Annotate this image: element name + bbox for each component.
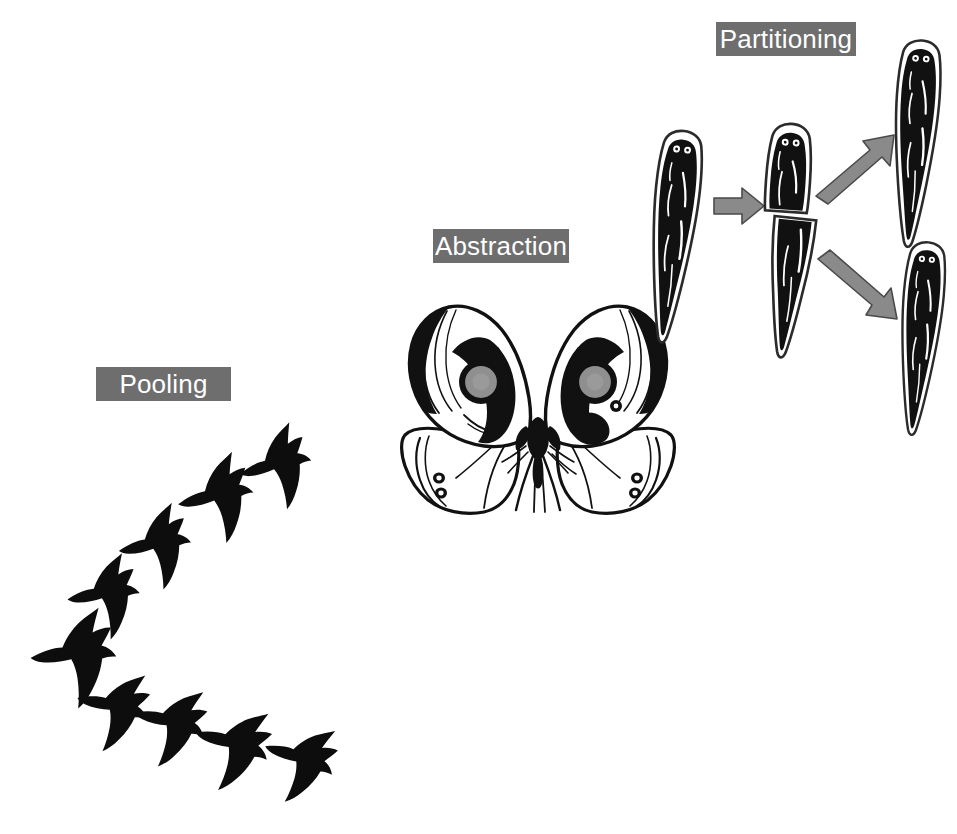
planarian-head-fragment [764, 122, 814, 213]
planarian-tail-fragment [760, 216, 816, 360]
bird-silhouette-9 [252, 714, 344, 813]
arrow-split-right [714, 188, 764, 224]
planarian-regenerated-bottom [892, 241, 949, 437]
planarian-intact [640, 129, 706, 345]
pooling-illustration [20, 425, 380, 815]
butterfly-forewing-left [409, 306, 530, 446]
arrow-regenerate-lower [818, 250, 897, 319]
label-partitioning: Partitioning [716, 22, 856, 56]
planarian-regenerated-top [886, 39, 943, 248]
butterfly-eyespot-right [573, 360, 617, 404]
butterfly-body [515, 418, 560, 489]
partitioning-illustration [640, 18, 957, 438]
arrow-regenerate-upper [816, 135, 894, 204]
butterfly-eyespot-left [459, 360, 503, 404]
abstraction-illustration [398, 278, 678, 543]
label-pooling: Pooling [96, 367, 231, 401]
concept-figure: Pooling Abstraction Partitioning [0, 0, 957, 834]
label-abstraction: Abstraction [433, 229, 569, 263]
